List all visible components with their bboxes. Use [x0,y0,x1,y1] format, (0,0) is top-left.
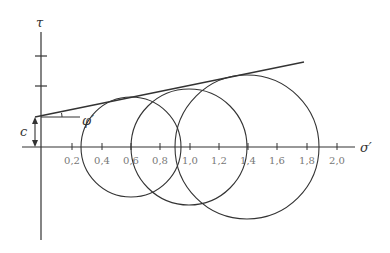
tau-label: τ [36,15,44,30]
svg-text:1,4: 1,4 [240,155,256,166]
svg-text:1,0: 1,0 [182,155,198,166]
cohesion-arrow [32,117,38,147]
failure-envelope [35,62,304,117]
phi-label: φ′ [82,113,94,128]
phi-arc [62,113,63,117]
svg-text:1,2: 1,2 [211,155,227,166]
mohr-diagram: 0,2 0,4 0,6 0,8 1,0 1,2 1,4 1,6 1,8 2,0 … [0,0,390,253]
sigma-label: σ′ [360,140,372,155]
svg-text:0,4: 0,4 [94,155,110,166]
svg-text:1,8: 1,8 [299,155,315,166]
svg-text:2,0: 2,0 [329,155,345,166]
svg-text:1,6: 1,6 [269,155,285,166]
svg-text:0,6: 0,6 [123,155,139,166]
svg-text:0,8: 0,8 [152,155,168,166]
svg-text:0,2: 0,2 [64,155,80,166]
x-tick-labels: 0,2 0,4 0,6 0,8 1,0 1,2 1,4 1,6 1,8 2,0 [64,155,345,166]
cohesion-label: c [20,124,28,139]
